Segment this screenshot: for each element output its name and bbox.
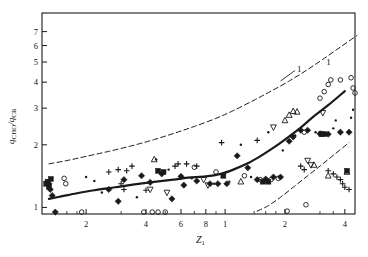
data-point-plus [298, 163, 304, 169]
data-point-plus [331, 171, 337, 177]
series-filled-diamond [46, 127, 352, 215]
data-point-filled-diamond [138, 173, 144, 179]
x-tick-label: 4 [136, 219, 156, 229]
data-point-plus [325, 168, 331, 174]
data-point-dot [294, 134, 296, 136]
plot-frame [42, 13, 355, 214]
data-point-filled-diamond [115, 198, 121, 204]
data-point-dot [213, 183, 215, 185]
data-point-dot [240, 144, 242, 146]
data-point-open-circle [302, 130, 307, 135]
axis-ticks [42, 32, 345, 214]
data-point-dot [352, 108, 354, 110]
data-point-plus [254, 138, 260, 144]
data-point-plus [115, 167, 121, 173]
annotation-leader-line [281, 71, 295, 82]
series-open-triangle-up [151, 108, 350, 184]
data-point-dot [332, 127, 334, 129]
x-tick-label: 2 [76, 219, 96, 229]
data-point-plus [121, 187, 127, 193]
y-tick-label: 7 [24, 27, 38, 37]
data-point-plus [129, 163, 135, 169]
data-point-open-circle [242, 173, 247, 178]
data-point-filled-diamond [337, 129, 343, 135]
y-axis-denominator-base: q [6, 118, 16, 123]
y-tick-label: 5 [24, 57, 38, 67]
data-point-open-circle [62, 176, 67, 181]
data-point-filled-square [48, 176, 53, 181]
y-axis-denominator-sub: CR [10, 108, 18, 117]
data-point-plus [194, 163, 200, 169]
data-point-dot [228, 180, 230, 182]
data-point-plus [184, 161, 190, 167]
data-point-dot [93, 180, 95, 182]
data-point-filled-diamond [169, 196, 175, 202]
data-points [44, 75, 358, 215]
trend-curves [49, 36, 357, 212]
annotation-leaders [281, 71, 295, 82]
data-point-filled-diamond [194, 178, 200, 184]
x-axis-title: Z1 [196, 234, 205, 247]
y-tick-label: 4 [24, 77, 38, 87]
data-point-open-circle [63, 181, 68, 186]
data-point-open-circle [326, 82, 331, 87]
data-point-plus [334, 174, 340, 180]
data-point-filled-square [161, 170, 166, 175]
data-point-dot [350, 116, 352, 118]
data-point-dot [267, 131, 269, 133]
data-point-plus [301, 167, 307, 173]
chart-page: qCHO/qCR Z1 24681241234567 11 [0, 0, 368, 257]
data-point-dot [282, 149, 284, 151]
y-tick-label: 1 [24, 202, 38, 212]
data-point-open-triangle-up [238, 178, 244, 184]
data-point-open-circle [322, 89, 327, 94]
data-point-dot [167, 168, 169, 170]
y-axis-numerator-base: q [6, 140, 16, 145]
data-point-open-triangle-down [271, 125, 277, 131]
data-point-open-circle [338, 78, 343, 83]
data-point-filled-diamond [346, 129, 352, 135]
data-point-open-circle [304, 202, 309, 207]
data-point-filled-square [44, 181, 49, 186]
x-tick-label: 8 [196, 219, 216, 229]
data-point-plus [106, 169, 112, 175]
x-axis-title-sub: 1 [202, 239, 206, 247]
y-tick-label: 2 [24, 140, 38, 150]
data-point-open-triangle-down [320, 111, 326, 117]
data-point-dot [335, 119, 337, 121]
x-tick-label: 2 [275, 219, 295, 229]
data-point-filled-square [221, 173, 226, 178]
data-point-open-triangle-down [201, 177, 207, 183]
y-tick-label: 6 [24, 41, 38, 51]
data-point-plus [124, 168, 130, 174]
data-point-dot [250, 176, 252, 178]
data-point-plus [219, 140, 225, 146]
data-point-dot [191, 177, 193, 179]
data-point-dot [136, 196, 138, 198]
data-point-dot [314, 131, 316, 133]
data-point-open-circle [214, 170, 219, 175]
x-tick-label: 1 [215, 219, 235, 229]
data-point-filled-diamond [121, 177, 127, 183]
x-tick-label: 4 [335, 219, 355, 229]
y-tick-label: 3 [24, 103, 38, 113]
y-axis-numerator-sub: CHO [10, 125, 18, 140]
data-point-open-circle [318, 96, 323, 101]
data-point-open-circle [349, 75, 354, 80]
data-point-filled-square [156, 168, 161, 173]
curve-label: 1 [326, 57, 331, 67]
curve-label: 1 [297, 64, 302, 74]
data-point-filled-square [322, 132, 327, 137]
data-point-open-circle [285, 209, 290, 214]
data-point-filled-diamond [181, 182, 187, 188]
data-point-open-triangle-down [164, 190, 170, 196]
data-point-filled-diamond [147, 179, 153, 185]
curve-upper-bound [49, 36, 357, 164]
x-tick-label: 6 [171, 219, 191, 229]
data-point-open-circle [328, 78, 333, 83]
data-point-open-triangle-up [282, 117, 288, 123]
series-open-circle [62, 75, 358, 214]
data-point-dot [85, 176, 87, 178]
data-point-filled-diamond [245, 165, 251, 171]
data-point-dot [155, 158, 157, 160]
